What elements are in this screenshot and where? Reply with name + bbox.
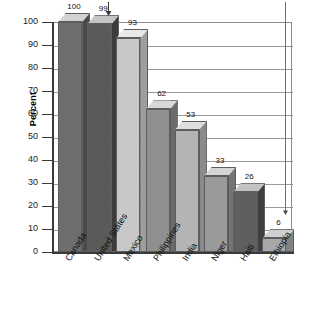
bar-value-label: 93	[115, 19, 149, 27]
x-axis-line	[52, 252, 294, 254]
y-axis-tick	[42, 229, 52, 230]
bar-value-label: 26	[232, 173, 266, 181]
y-axis-tick-label: 60	[4, 109, 38, 118]
bar-front-face	[146, 109, 170, 252]
bar-value-label: 62	[145, 90, 179, 98]
y-axis-tick	[42, 114, 52, 115]
down-arrow-icon-99	[104, 2, 113, 16]
y-axis-tick	[42, 68, 52, 69]
bar-front-face	[204, 176, 228, 252]
bar-front-face	[175, 130, 199, 252]
chart-canvas: Percent 1009080706050403020100 100999362…	[0, 0, 312, 324]
y-axis-tick-label: 20	[4, 201, 38, 210]
bar-front-face	[233, 192, 257, 252]
y-axis-tick-label: 90	[4, 40, 38, 49]
y-axis-tick	[42, 45, 52, 46]
bar-value-label: 6	[261, 219, 295, 227]
y-axis-tick	[42, 206, 52, 207]
y-axis-tick-label: 0	[4, 247, 38, 256]
y-axis-tick	[42, 91, 52, 92]
bar-front-face	[58, 22, 82, 252]
bar-front-face	[87, 24, 111, 252]
y-axis-tick-label: 70	[4, 86, 38, 95]
bar-value-label: 33	[203, 157, 237, 165]
y-axis-tick-label: 80	[4, 63, 38, 72]
y-axis-tick	[42, 22, 52, 23]
y-axis-tick	[42, 160, 52, 161]
leader-line-ethiopia	[285, 2, 286, 214]
y-axis-tick	[42, 252, 52, 253]
y-axis-tick-label: 40	[4, 155, 38, 164]
down-arrow-icon-6	[283, 210, 288, 215]
y-axis-tick-label: 100	[4, 17, 38, 26]
bar-value-label: 53	[174, 111, 208, 119]
y-axis-tick	[42, 137, 52, 138]
y-axis-line	[52, 22, 54, 253]
bar[interactable]	[233, 183, 265, 252]
bar[interactable]	[87, 15, 119, 252]
y-axis-tick-label: 10	[4, 224, 38, 233]
y-axis-tick-label: 50	[4, 132, 38, 141]
y-axis-tick	[42, 183, 52, 184]
bar[interactable]	[58, 13, 90, 252]
bar[interactable]	[175, 121, 207, 252]
y-axis-tick-label: 30	[4, 178, 38, 187]
